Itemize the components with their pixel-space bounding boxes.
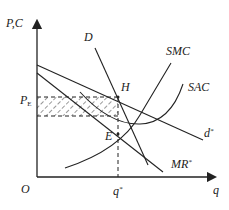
label-SMC: SMC (166, 45, 190, 57)
y-axis-label: P,C (6, 17, 23, 29)
origin-label: O (21, 183, 30, 195)
label-D: D (84, 31, 93, 43)
mr-star-curve (37, 73, 163, 172)
diagram-canvas (0, 0, 229, 210)
label-PE: PE (20, 94, 32, 108)
label-H: H (121, 81, 130, 93)
point-E (117, 133, 120, 136)
label-MR-star: MR* (171, 158, 192, 170)
label-E: E (105, 130, 112, 142)
x-axis-label: q (213, 184, 219, 196)
label-q-star: q* (113, 185, 123, 197)
label-SAC: SAC (188, 81, 209, 93)
profit-area (37, 97, 118, 116)
label-d-star: d* (204, 127, 214, 139)
point-H (117, 96, 120, 99)
